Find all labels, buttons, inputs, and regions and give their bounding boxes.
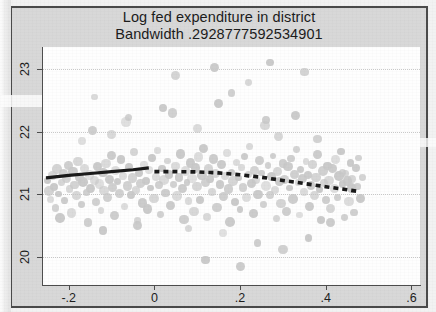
x-axis-label: 0 [137,291,171,305]
y-axis-label-text: 23 [17,58,33,80]
y-axis-label: 23 [14,61,36,77]
fit-lines [43,47,420,285]
x-axis-label: .6 [394,291,428,305]
chart-title-line1: Log fed expenditure in district [14,9,424,26]
plot-area [43,47,420,285]
y-axis-label: 22 [14,124,36,140]
x-axis-tick [326,285,327,290]
y-axis-tick [37,257,42,258]
x-axis-tick [240,285,241,290]
y-axis-label: 21 [14,186,36,202]
scan-edge-left [0,0,11,312]
y-axis-tick [37,69,42,70]
x-axis-label: -.2 [52,291,86,305]
fit-line-solid [46,168,149,178]
x-axis-line [42,285,421,286]
plot-inner [43,47,420,285]
y-axis-tick [37,132,42,133]
y-axis-label-text: 22 [17,121,33,143]
x-axis-label: .4 [309,291,343,305]
x-axis-tick [69,285,70,290]
chart-screenshot: Log fed expenditure in district Bandwidt… [0,0,436,312]
chart-title: Log fed expenditure in district Bandwidt… [14,9,424,43]
scan-artifact-left [0,95,42,107]
x-axis-tick [154,285,155,290]
y-axis-label: 20 [14,249,36,265]
chart-title-line2: Bandwidth .2928777592534901 [14,26,424,43]
y-axis-label-text: 21 [17,183,33,205]
x-axis-label: .2 [223,291,257,305]
fit-line-dashed [154,172,360,192]
y-axis-label-text: 20 [17,246,33,268]
x-axis-tick [411,285,412,290]
y-axis-tick [37,194,42,195]
y-axis-line [42,47,43,286]
